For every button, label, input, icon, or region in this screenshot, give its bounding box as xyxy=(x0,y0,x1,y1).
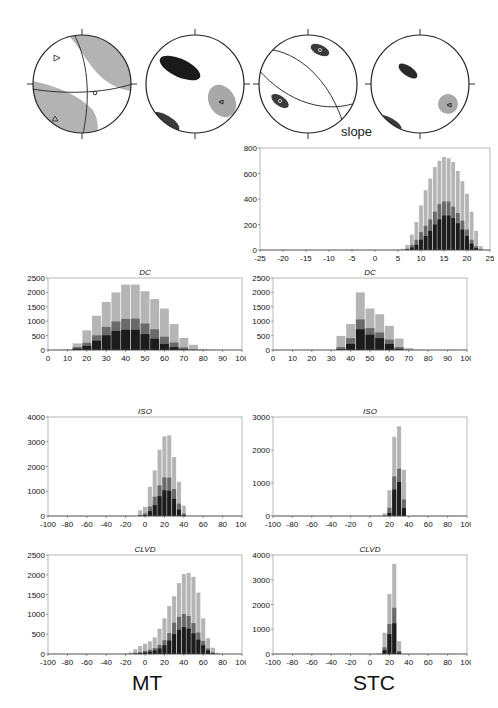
svg-text:-100: -100 xyxy=(265,658,282,667)
slope-histogram: -25-20-15-10-505101520250200400600800 xyxy=(226,136,494,266)
svg-text:2000: 2000 xyxy=(27,463,45,472)
svg-text:2000: 2000 xyxy=(27,571,45,580)
beachball-stereonet xyxy=(22,24,142,140)
svg-text:60: 60 xyxy=(385,354,394,363)
svg-text:0: 0 xyxy=(41,650,46,659)
svg-text:0: 0 xyxy=(266,512,271,521)
svg-text:1000: 1000 xyxy=(27,487,45,496)
svg-text:40: 40 xyxy=(179,520,188,529)
svg-text:40: 40 xyxy=(179,658,188,667)
svg-text:ISO: ISO xyxy=(363,407,377,416)
svg-text:-15: -15 xyxy=(300,254,312,263)
svg-text:0: 0 xyxy=(46,354,51,363)
svg-text:0: 0 xyxy=(368,520,373,529)
svg-text:10: 10 xyxy=(417,254,426,263)
svg-text:100: 100 xyxy=(460,658,471,667)
svg-text:-40: -40 xyxy=(100,658,112,667)
svg-text:500: 500 xyxy=(32,630,46,639)
svg-text:2500: 2500 xyxy=(27,551,45,560)
svg-text:100: 100 xyxy=(460,354,471,363)
svg-text:2000: 2000 xyxy=(252,601,270,610)
svg-text:20: 20 xyxy=(385,520,394,529)
svg-text:20: 20 xyxy=(160,520,169,529)
svg-text:50: 50 xyxy=(141,354,150,363)
svg-text:-80: -80 xyxy=(287,520,299,529)
svg-text:40: 40 xyxy=(404,520,413,529)
svg-text:600: 600 xyxy=(244,170,258,179)
stc-clvd-histogram: -100-80-60-40-20020406080100010002000300… xyxy=(239,543,471,670)
density-stereonet-1 xyxy=(146,29,250,139)
svg-text:200: 200 xyxy=(244,221,258,230)
svg-text:30: 30 xyxy=(327,354,336,363)
svg-text:0: 0 xyxy=(41,346,46,355)
svg-text:50: 50 xyxy=(366,354,375,363)
mt-dc-histogram: 0102030405060708090100050010001500200025… xyxy=(14,266,246,366)
svg-text:15: 15 xyxy=(440,254,449,263)
svg-text:0: 0 xyxy=(143,520,148,529)
svg-text:-5: -5 xyxy=(348,254,356,263)
svg-text:-80: -80 xyxy=(62,658,74,667)
svg-text:1000: 1000 xyxy=(27,610,45,619)
stc-dc-histogram: 0102030405060708090100050010001500200025… xyxy=(239,266,471,366)
svg-text:90: 90 xyxy=(218,354,227,363)
svg-text:100: 100 xyxy=(460,520,471,529)
svg-text:70: 70 xyxy=(404,354,413,363)
svg-text:ISO: ISO xyxy=(138,407,152,416)
svg-text:60: 60 xyxy=(199,658,208,667)
svg-text:3000: 3000 xyxy=(27,438,45,447)
svg-text:20: 20 xyxy=(82,354,91,363)
svg-text:-20: -20 xyxy=(345,658,357,667)
svg-text:20: 20 xyxy=(463,254,472,263)
svg-text:-60: -60 xyxy=(306,658,318,667)
svg-text:DC: DC xyxy=(139,268,151,277)
svg-text:-60: -60 xyxy=(81,520,93,529)
svg-text:-40: -40 xyxy=(325,658,337,667)
svg-text:0: 0 xyxy=(368,658,373,667)
svg-text:4000: 4000 xyxy=(252,551,270,560)
svg-text:90: 90 xyxy=(443,354,452,363)
svg-text:80: 80 xyxy=(424,354,433,363)
svg-text:1000: 1000 xyxy=(252,625,270,634)
svg-text:2000: 2000 xyxy=(252,288,270,297)
svg-text:0: 0 xyxy=(41,512,46,521)
svg-text:800: 800 xyxy=(244,144,258,153)
svg-text:2000: 2000 xyxy=(252,446,270,455)
svg-text:3000: 3000 xyxy=(252,413,270,422)
svg-text:0: 0 xyxy=(373,254,378,263)
stc-iso-histogram: -100-80-60-40-20020406080100010002000300… xyxy=(239,405,471,532)
svg-text:5: 5 xyxy=(396,254,401,263)
svg-text:1500: 1500 xyxy=(27,591,45,600)
density-stereonet-3 xyxy=(365,29,475,139)
svg-text:10: 10 xyxy=(63,354,72,363)
svg-text:10: 10 xyxy=(288,354,297,363)
svg-text:-80: -80 xyxy=(62,520,74,529)
svg-text:3000: 3000 xyxy=(252,576,270,585)
svg-text:60: 60 xyxy=(424,520,433,529)
svg-text:80: 80 xyxy=(443,658,452,667)
mt-iso-histogram: -100-80-60-40-20020406080100010002000300… xyxy=(14,405,246,532)
stc-column-label: STC xyxy=(353,671,395,695)
svg-text:-20: -20 xyxy=(277,254,289,263)
svg-text:-80: -80 xyxy=(287,658,299,667)
svg-text:1500: 1500 xyxy=(27,303,45,312)
svg-text:1000: 1000 xyxy=(27,317,45,326)
mt-column-label: MT xyxy=(132,671,162,695)
svg-text:60: 60 xyxy=(424,658,433,667)
stereonet-row xyxy=(0,0,498,140)
svg-text:-40: -40 xyxy=(325,520,337,529)
svg-text:-100: -100 xyxy=(40,658,57,667)
svg-text:-60: -60 xyxy=(306,520,318,529)
svg-text:500: 500 xyxy=(32,332,46,341)
svg-text:60: 60 xyxy=(199,520,208,529)
svg-text:2500: 2500 xyxy=(27,274,45,283)
svg-text:4000: 4000 xyxy=(27,413,45,422)
svg-text:80: 80 xyxy=(199,354,208,363)
svg-text:-20: -20 xyxy=(120,520,132,529)
svg-text:80: 80 xyxy=(218,658,227,667)
svg-text:40: 40 xyxy=(346,354,355,363)
svg-text:-10: -10 xyxy=(323,254,335,263)
svg-text:0: 0 xyxy=(271,354,276,363)
svg-text:1500: 1500 xyxy=(252,303,270,312)
svg-text:40: 40 xyxy=(121,354,130,363)
svg-text:60: 60 xyxy=(160,354,169,363)
